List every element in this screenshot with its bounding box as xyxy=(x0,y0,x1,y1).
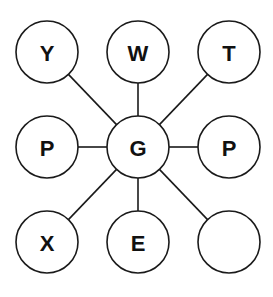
node-top-right: T xyxy=(198,21,260,83)
node-bottom-right xyxy=(198,211,260,273)
nodes: YWTPPXEG xyxy=(16,21,260,273)
node-bottom-left: X xyxy=(16,211,78,273)
edge-top-right xyxy=(159,74,207,124)
node-middle-left: P xyxy=(16,116,78,178)
node-label: G xyxy=(129,136,146,161)
node-bottom-middle: E xyxy=(107,211,169,273)
node-label: Y xyxy=(40,41,55,66)
node-circle xyxy=(198,211,260,273)
node-label: T xyxy=(222,41,236,66)
node-middle-right: P xyxy=(198,116,260,178)
center-node: G xyxy=(107,116,169,178)
node-label: X xyxy=(40,231,55,256)
node-label: P xyxy=(40,136,55,161)
edge-bottom-right xyxy=(159,169,207,219)
node-label: E xyxy=(131,231,146,256)
letter-diagram: YWTPPXEG xyxy=(0,0,273,297)
node-top-middle: W xyxy=(107,21,169,83)
node-top-left: Y xyxy=(16,21,78,83)
edge-top-left xyxy=(68,74,116,124)
node-label: W xyxy=(128,41,149,66)
edge-bottom-left xyxy=(68,169,116,219)
node-label: P xyxy=(222,136,237,161)
